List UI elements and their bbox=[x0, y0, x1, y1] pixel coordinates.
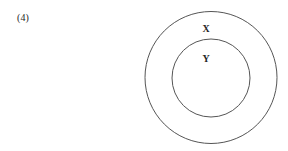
venn-diagram: X Y bbox=[0, 0, 288, 151]
inner-set-label: Y bbox=[202, 53, 210, 64]
outer-set-label: X bbox=[202, 23, 210, 34]
figure-canvas: (4) X Y bbox=[0, 0, 288, 151]
outer-set-circle bbox=[145, 12, 277, 144]
inner-set-circle bbox=[172, 39, 250, 117]
